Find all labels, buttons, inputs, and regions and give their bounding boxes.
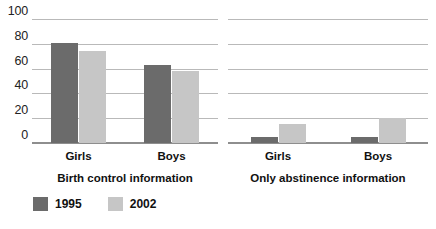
bar-group-left <box>32 18 218 144</box>
bar-1995-boys <box>144 65 171 143</box>
legend-label: 2002 <box>130 198 157 210</box>
panel-title: Birth control information <box>57 172 192 184</box>
y-axis-tick-label: 20 <box>14 104 28 117</box>
chart-panel-birth-control <box>32 18 218 144</box>
chart-legend: 19952002 <box>33 197 156 211</box>
y-axis-tick-label: 100 <box>8 5 28 18</box>
bar-1995-girls <box>51 43 78 143</box>
bar-2002-girls <box>79 51 106 143</box>
category-label-boys: Boys <box>157 150 185 162</box>
legend-swatch-icon <box>108 197 123 211</box>
bar-2002-girls <box>279 124 306 143</box>
chart-panel-abstinence <box>228 18 428 144</box>
y-axis-tick-label: 80 <box>14 30 28 43</box>
legend-item-1995: 1995 <box>33 197 82 211</box>
bar-1995-girls <box>251 137 278 143</box>
category-label-girls: Girls <box>265 150 291 162</box>
bar-group-right <box>228 18 428 144</box>
y-axis-tick-label: 60 <box>14 54 28 67</box>
y-axis-tick-label: 40 <box>14 79 28 92</box>
bar-1995-boys <box>351 137 378 143</box>
bar-2002-boys <box>379 118 406 143</box>
legend-swatch-icon <box>33 197 48 211</box>
y-axis: 100806040200 <box>0 0 32 160</box>
grouped-bar-chart: 100806040200 19952002 GirlsBoysBirth con… <box>0 0 436 229</box>
legend-label: 1995 <box>55 198 82 210</box>
legend-item-2002: 2002 <box>108 197 157 211</box>
category-label-boys: Boys <box>364 150 392 162</box>
category-label-girls: Girls <box>65 150 91 162</box>
panel-title: Only abstinence information <box>250 172 405 184</box>
bar-2002-boys <box>172 71 199 143</box>
y-axis-tick-label: 0 <box>21 129 28 142</box>
